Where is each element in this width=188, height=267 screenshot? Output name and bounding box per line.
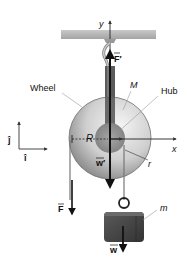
hub-label: Hub [161, 86, 178, 96]
radius-R-label: R [86, 133, 93, 144]
ceiling-mount [104, 39, 116, 43]
wheel-mass-label: M [130, 80, 138, 90]
unit-i-label: î [23, 153, 27, 163]
hanging-block [104, 212, 144, 242]
weight-mass-label: w [109, 245, 118, 255]
weight-wheel-label: w′ [95, 158, 105, 168]
y-axis-label: y [98, 19, 104, 29]
hanging-mass-leader [143, 210, 157, 220]
unit-j-label: ĵ [7, 135, 11, 145]
radius-r-label: r [148, 159, 152, 169]
x-axis-label: x [171, 144, 177, 154]
ceiling-beam [61, 30, 156, 39]
force-F-prime-label: F′ [114, 54, 122, 64]
force-F-label: F [58, 204, 64, 214]
pulley-diagram: y F x R r F′ w′ M Hub Wheel ĵ î [0, 0, 188, 267]
hanging-mass-label: m [160, 203, 168, 213]
wheel-label: Wheel [30, 83, 56, 93]
wheel-leader [62, 93, 82, 107]
